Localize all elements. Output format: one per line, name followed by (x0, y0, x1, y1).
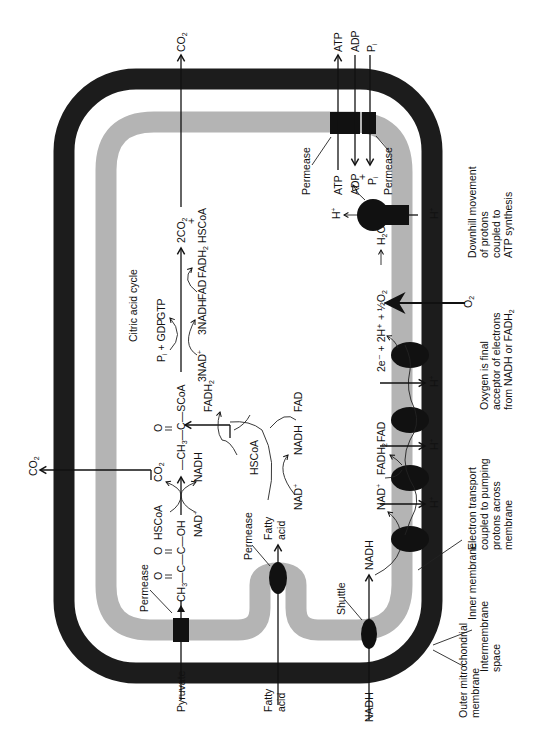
svg-text:Oxygen is final: Oxygen is final (478, 341, 490, 410)
etc-fadh2: FADH2 (375, 443, 388, 475)
cac-3nadh: 3NADH (196, 299, 208, 335)
svg-text:acid: acid (275, 693, 287, 712)
beta-hscoa: HSCoA (248, 440, 260, 475)
inner-membrane-label: Inner membrane (466, 543, 478, 620)
annotation-downhill: Downhill movement of protons coupled to … (466, 166, 514, 258)
svg-text:Downhill movement: Downhill movement (466, 166, 478, 258)
pdh-nadh: NADH (192, 452, 204, 482)
mitochondrion-diagram: Pyruvate Permease CH3—C—C—OH O O HSCoA N… (0, 0, 549, 750)
pyruvate-label: Pyruvate (175, 670, 187, 712)
cac-fadh2: FADH2 (196, 246, 209, 278)
o2-label: O2 (462, 296, 475, 308)
svg-text:CH3—C—C—OH: CH3—C—C—OH (175, 521, 188, 603)
oxygen-reaction: 2e⁻ + 2H⁺ + ½O2 (375, 290, 388, 372)
pdh-co2: CO2 (152, 462, 165, 482)
permease-adp-label: Permease (382, 147, 394, 195)
beta-nad: NAD+ (292, 484, 304, 510)
svg-text:—CH3—C—SCoA: —CH3—C—SCoA (175, 384, 188, 470)
svg-text:Pyruvate: Pyruvate (175, 670, 187, 712)
atp-in-matrix: ATP (332, 175, 344, 195)
svg-text:Electron transport: Electron transport (466, 467, 478, 550)
etc-fad: FAD (375, 421, 387, 442)
cac-pi-gdp: Pi + GDP (155, 319, 168, 362)
svg-text:H+: H+ (330, 207, 342, 219)
fatty-acid-outside-label: Fatty (262, 688, 274, 712)
beta-fadh2: FADH2 (202, 380, 215, 412)
etc-nad: NAD+ (375, 484, 387, 510)
svg-text:space: space (490, 644, 502, 672)
svg-text:acceptor of electrons: acceptor of electrons (490, 313, 502, 410)
svg-text:coupled to pumping: coupled to pumping (478, 458, 490, 550)
cac-gtp: GTP (155, 298, 167, 320)
intermembrane-label: Intermembrane (478, 601, 490, 672)
fatty-acid-inside-label: Fatty (262, 516, 274, 540)
annotation-electron-transport: Electron transport coupled to pumping pr… (466, 458, 514, 550)
permease-pyruvate-label: Permease (138, 564, 150, 612)
pyruvate-molecule: CH3—C—C—OH O O HSCoA NAD+ (152, 505, 204, 602)
cac-3nad: 3NAD+ (196, 350, 208, 382)
beta-fad: FAD (292, 391, 304, 412)
svg-text:membrane: membrane (502, 500, 514, 550)
svg-text:protons across: protons across (490, 481, 502, 550)
complex-3 (391, 407, 429, 433)
pi-outside: Pi (365, 43, 378, 52)
atp-output: ATP (332, 32, 344, 52)
beta-nadh: NADH (292, 425, 304, 455)
adp-outside: ADP (349, 30, 361, 52)
svg-text:membrane: membrane (469, 668, 481, 718)
permease-fatty-acid-label: Permease (242, 512, 254, 560)
inner-membrane (106, 122, 402, 630)
atp-synthase-stalk (385, 205, 409, 225)
annotation-oxygen: Oxygen is final acceptor of electrons fr… (478, 309, 515, 410)
svg-text:of protons: of protons (478, 211, 490, 258)
fatty-acid-permease (269, 562, 287, 594)
atp-synthase-head (357, 199, 389, 231)
svg-text:ATP synthesis: ATP synthesis (502, 192, 514, 258)
svg-text:HSCoA: HSCoA (152, 505, 164, 540)
svg-text:O: O (152, 572, 164, 580)
outer-membrane (64, 79, 432, 673)
svg-text:NAD+: NAD+ (192, 511, 204, 537)
cac-title: Citric acid cycle (127, 269, 139, 342)
nadh-outside-label: NADH (363, 692, 375, 722)
shuttle-label: Shuttle (335, 582, 347, 615)
complex-2 (391, 465, 429, 491)
cac-hscoa: HSCoA (196, 208, 208, 243)
pyruvate-permease (173, 618, 189, 642)
co2-top-output: CO2 (175, 32, 188, 52)
co2-left-output: CO2 (27, 456, 40, 476)
shuttle (361, 619, 377, 649)
svg-text:O: O (152, 424, 164, 432)
svg-text:O: O (152, 547, 164, 555)
complex-1 (391, 526, 429, 552)
acetyl-coa: —CH3—C—SCoA O (152, 384, 188, 470)
pi-permease (362, 112, 376, 134)
nadh-inside-label: NADH (363, 540, 375, 570)
svg-text:from NADH or FADH2: from NADH or FADH2 (502, 309, 515, 410)
svg-text:acid: acid (275, 521, 287, 540)
cac-fad: FAD (196, 279, 208, 300)
permease-atp-label: Permease (300, 147, 312, 195)
outer-membrane-label: Outer mitrochondrial (457, 623, 469, 718)
svg-text:coupled to: coupled to (490, 209, 502, 258)
